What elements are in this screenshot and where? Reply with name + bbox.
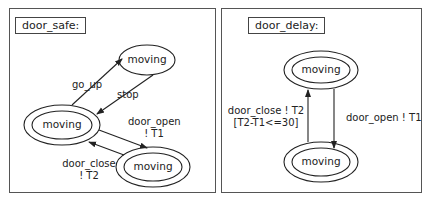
transition-label: go_up: [72, 79, 102, 91]
transition-label: door_close ! T2 [T2-T1<=30]: [226, 105, 306, 129]
transition-label: door_open ! T1: [346, 112, 422, 124]
diagram-title: door_delay:: [248, 17, 325, 34]
state-label: moving: [120, 53, 174, 65]
state-label: moving: [294, 155, 348, 167]
transition-label: door_close ! T2: [62, 158, 116, 182]
transition-label: stop: [117, 89, 139, 101]
state-label: moving: [126, 160, 180, 172]
state-label: moving: [294, 63, 348, 75]
transition-door-close: [89, 142, 124, 155]
diagram-title: door_safe:: [15, 17, 86, 34]
transition-label: door_open ! T1: [128, 116, 180, 140]
state-label: moving: [35, 118, 89, 130]
